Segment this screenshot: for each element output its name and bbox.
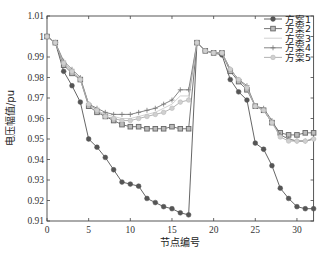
- legend-item-5: 方案5: [264, 52, 311, 63]
- y-tick-label: 0.99: [27, 52, 44, 62]
- y-tick-label: 0.97: [27, 93, 44, 103]
- y-tick-label: 0.94: [27, 155, 44, 165]
- legend-label: 方案5: [285, 52, 311, 63]
- voltage-line-chart: 051015202530 0.910.920.930.940.950.960.9…: [0, 0, 325, 259]
- plot-border: [47, 16, 314, 221]
- y-tick-label: 1.01: [27, 11, 44, 21]
- x-axis-label: 节点编号: [160, 236, 200, 248]
- y-tick-label: 0.98: [27, 73, 44, 83]
- x-tick-label: 5: [86, 225, 91, 235]
- x-tick-label: 10: [126, 225, 136, 235]
- y-tick-label: 0.93: [27, 175, 44, 185]
- y-tick-label: 0.91: [27, 216, 44, 226]
- y-tick-label: 0.95: [27, 134, 44, 144]
- series-2: [45, 34, 316, 137]
- y-axis-label: 电压幅值/pu: [4, 90, 16, 146]
- x-tick-label: 0: [45, 225, 50, 235]
- series-layer: [45, 34, 317, 217]
- y-tick-label: 1: [39, 32, 44, 42]
- y-tick-label: 0.96: [27, 114, 44, 124]
- legend: 方案1方案2方案3方案4方案5: [264, 14, 311, 63]
- x-tick-label: 20: [209, 225, 219, 235]
- x-tick-label: 15: [167, 225, 177, 235]
- y-tick-label: 0.92: [27, 196, 44, 206]
- x-tick-label: 30: [292, 225, 302, 235]
- x-tick-label: 25: [251, 225, 261, 235]
- plot-area: [47, 16, 314, 221]
